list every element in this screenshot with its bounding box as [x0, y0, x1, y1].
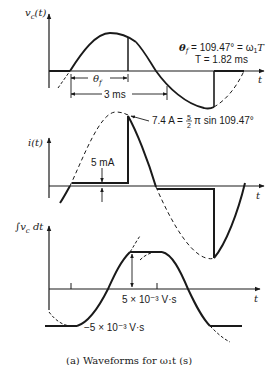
lower-level-label: −5 × 10⁻³ V·s — [84, 322, 144, 333]
upper-level-label: 5 × 10⁻³ V·s — [122, 294, 176, 305]
vc-dashed-lead — [58, 71, 70, 88]
peak-frac-num: 5 — [187, 114, 191, 121]
int-y-label: ∫vc dt — [15, 221, 44, 235]
i-lead-in — [60, 186, 70, 203]
plot-vc: vc(t) t θf 3 ms θf = 109.47° = ω1T T = 1… — [25, 7, 265, 108]
figure-caption: (a) Waveforms for ω₁t (s) — [66, 355, 192, 365]
i-rise — [214, 183, 245, 258]
i-dashed-arch — [70, 112, 130, 186]
i-y-label: i(t) — [28, 137, 43, 148]
i-x-label: t — [256, 190, 261, 201]
vc-x-label: t — [258, 74, 263, 85]
i-dashed-trough — [156, 187, 214, 259]
plot-integral: ∫vc dt t 5 × 10⁻³ V·s −5 × 10⁻³ V·s — [15, 221, 260, 342]
offset-label: 5 mA — [91, 157, 115, 168]
int-x-label: t — [254, 293, 259, 304]
peak-pointer — [131, 116, 149, 121]
period-equation: T = 1.82 ms — [195, 54, 248, 65]
vc-positive-arch — [70, 33, 136, 71]
period-label: 3 ms — [104, 89, 126, 100]
int-dashed-dip — [49, 312, 70, 326]
peak-frac-den: 2 — [187, 122, 191, 129]
i-step-up — [72, 116, 128, 183]
int-dashed-shoulder — [140, 252, 158, 260]
vc-dashed-tail — [214, 71, 244, 107]
int-dashed-tail — [210, 326, 230, 342]
vc-y-label: vc(t) — [25, 7, 46, 21]
waveform-diagram: vc(t) t θf 3 ms θf = 109.47° = ω1T T = 1… — [0, 0, 274, 365]
peak-equation: 7.4 A = — [152, 115, 183, 126]
peak-rhs: π sin 109.47° — [194, 115, 254, 126]
i-descent — [128, 116, 156, 187]
plot-i: i(t) t 5 mA 7.4 A = 5 2 π sin 109.47° — [28, 112, 264, 259]
int-dashed-up — [130, 236, 140, 252]
i-step-down — [157, 189, 214, 258]
